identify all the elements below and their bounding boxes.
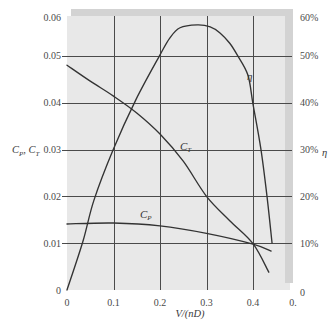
x-axis-tick-label: 0. [289,297,297,308]
propeller-performance-chart: ηCTCP 00.010.020.030.040.050.06 010%20%3… [0,0,333,328]
left-axis-tick-label: 0.01 [44,238,62,249]
left-axis-tick-label: 0.05 [44,50,62,61]
left-axis-tick-label: 0 [56,285,61,296]
right-axis-tick-labels: 010%20%30%40%50%60% [300,12,318,298]
right-axis-title: η [322,147,327,158]
right-axis-tick-label: 0 [300,287,305,298]
right-axis-tick-label: 50% [300,50,318,61]
left-axis-title: CP, CT [12,144,41,158]
axis-title-text: , C [23,144,36,155]
left-axis-tick-label: 0.02 [44,191,62,202]
plot-frame-right-band [285,9,293,283]
left-axis-tick-label: 0.03 [44,144,62,155]
right-axis-tick-label: 40% [300,97,318,108]
efficiency-curve-label: η [247,70,252,82]
x-axis-tick-labels: 00.10.20.30.40. [65,297,297,308]
right-axis-tick-label: 10% [300,238,318,249]
left-axis-tick-label: 0.04 [44,97,62,108]
x-axis-tick-label: 0.4 [247,297,260,308]
x-axis-tick-label: 0.1 [107,297,120,308]
curve-label-subscript: P [146,214,152,222]
right-axis-tick-label: 20% [300,191,318,202]
plot-frame-top-band [71,9,293,16]
left-axis-tick-label: 0.06 [44,12,62,23]
right-axis-tick-label: 30% [300,144,318,155]
x-axis-title: V/(nD) [175,308,205,320]
x-axis-tick-label: 0.3 [200,297,213,308]
axis-title-subscript: T [36,150,41,158]
right-axis-tick-label: 60% [300,12,318,23]
curve-label-text: η [247,70,252,82]
left-axis-tick-labels: 00.010.020.030.040.050.06 [44,12,62,296]
x-axis-tick-label: 0 [65,297,70,308]
x-axis-tick-label: 0.2 [154,297,167,308]
